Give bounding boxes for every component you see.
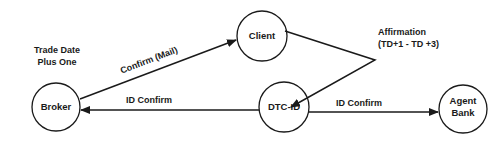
- node-agent-bank: Agent Bank: [439, 85, 487, 133]
- id-confirm-broker-label: ID Confirm: [126, 95, 172, 105]
- client-label: Client: [249, 30, 276, 41]
- trade-confirmation-diagram: Broker Client DTC-ID Agent Bank Confirm …: [0, 0, 490, 152]
- node-dtc-id: DTC-ID: [259, 82, 309, 132]
- trade-date-line2: Plus One: [37, 57, 76, 67]
- agent-bank-label-line1: Agent: [450, 95, 478, 106]
- broker-label: Broker: [41, 101, 72, 112]
- node-client: Client: [237, 11, 287, 61]
- confirm-mail-label: Confirm (Mail): [119, 45, 179, 76]
- dtc-id-label: DTC-ID: [268, 101, 300, 112]
- affirmation-line2: (TD+1 - TD +3): [378, 39, 439, 49]
- affirmation-line1: Affirmation: [378, 27, 426, 37]
- trade-date-line1: Trade Date: [34, 45, 80, 55]
- id-confirm-agent-label: ID Confirm: [336, 98, 382, 108]
- agent-bank-label-line2: Bank: [451, 107, 475, 118]
- node-broker: Broker: [32, 83, 80, 131]
- edge-confirm-mail: [80, 40, 236, 99]
